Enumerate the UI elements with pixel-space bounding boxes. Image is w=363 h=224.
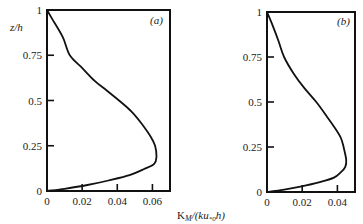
x-label-end: h) <box>216 209 226 222</box>
y-tick-label: 1 <box>37 4 43 16</box>
panel-a: 00.250.50.751 00.020.040.06 (a) z/h <box>9 4 170 207</box>
x-tick-label: 0.02 <box>73 195 92 207</box>
x-tick-label: 0.04 <box>328 196 348 208</box>
y-tick-label: 0.75 <box>23 49 43 61</box>
x-tick-label: 0.04 <box>108 195 128 207</box>
figure: 00.250.50.751 00.020.040.06 (a) z/h 00.2… <box>0 0 363 224</box>
x-label-mid: /(ku <box>191 209 210 222</box>
x-tick-label: 0 <box>264 196 270 208</box>
y-tick-label: 1 <box>257 6 263 18</box>
x-tick-label: 0.06 <box>143 195 163 207</box>
y-tick-label: 0 <box>37 185 43 197</box>
x-tick-label: 0.02 <box>293 196 312 208</box>
panel-a-x-ticks: 00.020.040.06 <box>44 184 162 207</box>
panel-b-frame <box>267 12 355 192</box>
panel-a-y-ticks: 00.250.50.751 <box>23 4 54 197</box>
panel-b-label: (b) <box>337 15 350 28</box>
panel-a-label: (a) <box>150 14 163 27</box>
panel-b-x-ticks: 00.020.04 <box>264 185 347 208</box>
x-axis-label: KM/(ku*0h) <box>177 209 225 223</box>
panel-b: 00.250.50.751 00.020.04 (b) <box>243 6 355 208</box>
y-tick-label: 0.75 <box>243 51 263 63</box>
y-tick-label: 0 <box>257 186 263 198</box>
y-tick-label: 0.5 <box>28 95 42 107</box>
panel-a-curve <box>47 10 157 191</box>
x-tick-label: 0 <box>44 195 50 207</box>
y-axis-label: z/h <box>9 21 23 33</box>
panel-a-frame <box>47 10 170 191</box>
y-tick-label: 0.5 <box>248 96 262 108</box>
panel-b-y-ticks: 00.250.50.751 <box>243 6 274 198</box>
y-tick-label: 0.25 <box>243 141 263 153</box>
y-tick-label: 0.25 <box>23 140 43 152</box>
panel-b-curve <box>267 12 346 192</box>
x-label-k: K <box>177 209 185 221</box>
